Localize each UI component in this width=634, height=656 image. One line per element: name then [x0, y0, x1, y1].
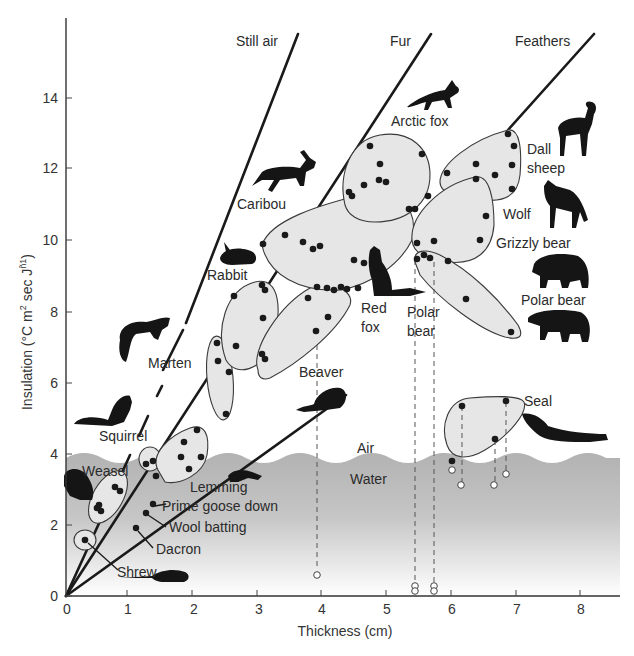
red-fox-label-line2: fox: [361, 319, 380, 335]
squirrel-label: Squirrel: [99, 428, 147, 444]
fur-label: Fur: [390, 33, 411, 49]
y-tick-label-6: 6: [50, 375, 58, 391]
caribou-label: Caribou: [237, 196, 286, 212]
x-tick-label-4: 4: [318, 601, 326, 617]
y-axis-title-main: Insulation (°C m: [19, 310, 35, 410]
dacron-point: [133, 525, 139, 531]
arctic-fox-icon: [407, 80, 459, 110]
seal-icon: [522, 414, 608, 442]
beaver-icon: [296, 388, 346, 412]
beaver-label: Beaver: [299, 364, 344, 380]
y-tick-label-10: 10: [42, 232, 58, 248]
x-tick-label-2: 2: [190, 601, 198, 617]
y-tick-label-8: 8: [50, 304, 58, 320]
y-axis-title-close: ): [19, 254, 35, 259]
lemming-label: Lemming: [190, 479, 248, 495]
squirrel-icon: [74, 396, 132, 426]
y-axis-title-mid: sec J: [19, 269, 35, 306]
rabbit-label: Rabbit: [207, 267, 248, 283]
still-air-line-dash-2: [157, 386, 162, 396]
dacron-label: Dacron: [156, 541, 201, 557]
x-tick-label-1: 1: [124, 601, 132, 617]
marten-label: Marten: [148, 355, 192, 371]
shrew-label: Shrew: [117, 564, 158, 580]
red-fox-label-line1: Red: [361, 300, 387, 316]
insulation-vs-thickness-chart: Still air Fur Feathers Arctic fox Dall s…: [0, 0, 634, 656]
sheep-label: sheep: [527, 160, 565, 176]
rabbit-icon: [220, 242, 256, 265]
x-tick-label-8: 8: [577, 601, 585, 617]
y-tick-label-0: 0: [50, 588, 58, 604]
polar-bear-mid-label-line2: bear: [407, 323, 435, 339]
dall-label: Dall: [527, 141, 551, 157]
arctic-fox-label: Arctic fox: [391, 113, 449, 129]
caribou-icon: [252, 150, 316, 192]
x-axis-title: Thickness (cm): [298, 623, 393, 639]
x-tick-label-7: 7: [513, 601, 521, 617]
y-axis-title-sup2: ñ1: [18, 259, 28, 269]
grizzly-bear-icon: [532, 254, 589, 288]
polar-bear-icon: [528, 310, 590, 342]
wool-batting-label: Wool batting: [169, 519, 247, 535]
grizzly-bear-label: Grizzly bear: [496, 235, 571, 251]
prime-goose-down-label: Prime goose down: [162, 498, 278, 514]
wolf-icon: [544, 180, 588, 228]
x-tick-label-3: 3: [255, 601, 263, 617]
seal-cluster: [445, 397, 525, 457]
dall-sheep-icon: [558, 101, 596, 156]
still-air-label: Still air: [236, 33, 278, 49]
x-tick-label-5: 5: [383, 601, 391, 617]
y-axis-title: Insulation (°C m2 sec Jñ1): [18, 254, 35, 410]
x-tick-label-6: 6: [448, 601, 456, 617]
weasel-label: Weasel: [82, 463, 128, 479]
wolf-label: Wolf: [503, 206, 531, 222]
y-tick-label-12: 12: [42, 160, 58, 176]
y-tick-label-14: 14: [42, 90, 58, 106]
water-label: Water: [350, 471, 387, 487]
feathers-label: Feathers: [515, 33, 570, 49]
seal-label: Seal: [524, 393, 552, 409]
air-label: Air: [357, 440, 374, 456]
y-tick-label-4: 4: [50, 446, 58, 462]
y-tick-label-2: 2: [50, 517, 58, 533]
polar-bear-label: Polar bear: [521, 292, 586, 308]
x-tick-label-0: 0: [63, 601, 71, 617]
polar-bear-mid-label-line1: Polar: [407, 304, 440, 320]
